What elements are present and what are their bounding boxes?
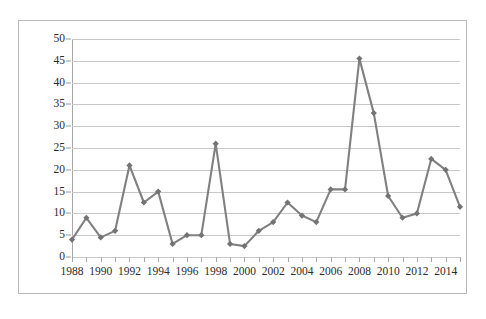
y-axis-tick-mark [66,60,71,61]
y-axis-tick-mark [66,235,71,236]
x-axis-tick-mark [201,257,202,262]
data-point-marker [112,228,118,234]
x-axis-tick-mark [173,257,174,262]
y-axis-tick-mark [66,191,71,192]
x-axis-tick-mark [101,257,102,262]
x-axis-labels-group: 1988199019921994199619982000200220042006… [72,266,460,286]
x-axis-tick-mark [446,257,447,262]
x-axis-tick-mark [216,257,217,262]
x-axis-tick-label: 2010 [377,266,400,278]
series-markers-group [69,56,463,250]
y-axis-tick-label: 20 [54,164,66,176]
x-axis-tick-label: 1994 [147,266,170,278]
x-axis-tick-mark [417,257,418,262]
y-axis-tick-mark [66,148,71,149]
y-axis-tick-label: 15 [54,186,66,198]
y-axis-tick-label: 10 [54,208,66,220]
y-axis-tick-mark [66,257,71,258]
y-axis-tick-label: 25 [54,142,66,154]
y-axis-tick-label: 5 [59,229,65,241]
data-point-marker [342,186,348,192]
x-axis-tick-mark [72,257,73,262]
x-axis-tick-mark [388,257,389,262]
x-axis-tick-mark [129,257,130,262]
x-axis-tick-label: 1992 [118,266,141,278]
x-axis-tick-label: 1988 [61,266,84,278]
data-point-marker [457,204,463,210]
plot-area: 05101520253035404550 [72,39,460,257]
chart-frame: 05101520253035404550 1988199019921994199… [18,20,467,294]
x-axis-tick-label: 2002 [262,266,285,278]
data-point-marker [313,219,319,225]
x-axis-tick-mark [331,257,332,262]
x-axis-tick-mark [230,257,231,262]
x-axis-tick-label: 2000 [233,266,256,278]
x-axis-tick-mark [187,257,188,262]
x-axis-tick-mark [86,257,87,262]
x-axis-tick-mark [158,257,159,262]
x-axis-tick-mark [359,257,360,262]
x-axis-tick-mark [273,257,274,262]
x-axis-tick-mark [115,257,116,262]
y-axis-tick-mark [66,39,71,40]
data-point-marker [126,162,132,168]
x-axis-tick-mark [316,257,317,262]
y-axis-tick-mark [66,126,71,127]
x-axis-tick-mark [403,257,404,262]
x-axis-tick-label: 1996 [175,266,198,278]
x-axis-tick-label: 1998 [204,266,227,278]
y-axis-tick-mark [66,104,71,105]
y-axis-tick-label: 0 [59,251,65,263]
x-axis-tick-label: 1990 [89,266,112,278]
data-point-marker [328,186,334,192]
y-axis-tick-mark [66,213,71,214]
figure-container: 05101520253035404550 1988199019921994199… [0,0,486,319]
y-axis-tick-label: 35 [54,99,66,111]
data-point-marker [227,241,233,247]
x-axis-tick-label: 2008 [348,266,371,278]
x-axis-tick-mark [374,257,375,262]
y-axis-tick-mark [66,169,71,170]
x-axis-tick-label: 2004 [290,266,313,278]
x-axis-tick-mark [144,257,145,262]
y-axis-tick-label: 50 [54,33,66,45]
y-axis-tick-label: 40 [54,77,66,89]
line-series-svg [72,39,460,257]
x-axis-tick-mark [259,257,260,262]
y-axis-tick-label: 45 [54,55,66,67]
data-point-marker [371,110,377,116]
x-axis-tick-mark [288,257,289,262]
x-axis-tick-label: 2014 [434,266,457,278]
x-axis-tick-mark [244,257,245,262]
data-point-marker [213,141,219,147]
x-axis-tick-mark [431,257,432,262]
data-point-marker [356,56,362,62]
y-axis-tick-mark [66,82,71,83]
data-point-marker [198,232,204,238]
data-point-marker [414,210,420,216]
x-axis-tick-mark [302,257,303,262]
y-axis-tick-label: 30 [54,120,66,132]
x-axis-tick-label: 2006 [319,266,342,278]
x-axis-tick-mark [345,257,346,262]
x-axis-tick-mark [460,257,461,262]
x-axis-tick-label: 2012 [405,266,428,278]
